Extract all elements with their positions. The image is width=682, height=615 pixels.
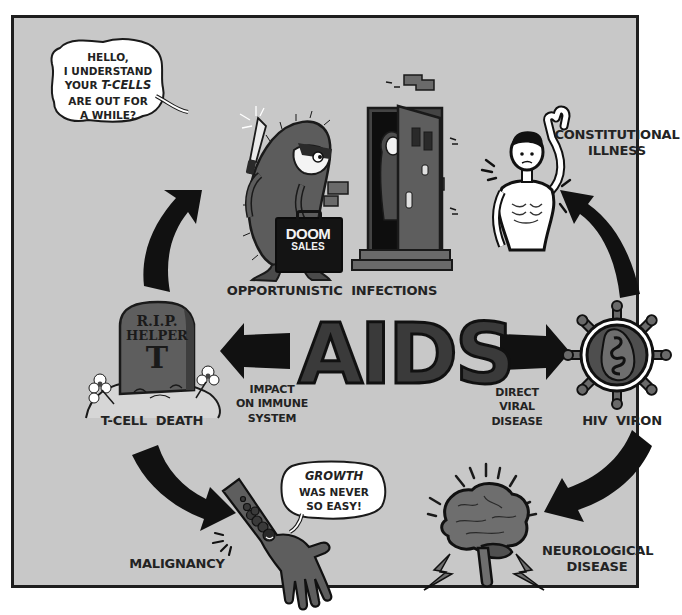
brain-icon <box>412 458 562 598</box>
speech-bubble-growth-text: GROWTH WAS NEVER SO EASY! <box>286 469 382 513</box>
label-hiv-viron: HIV VIRON <box>572 413 672 429</box>
label-opportunistic-infections: OPPORTUNISTIC INFECTIONS <box>222 283 442 299</box>
knife-icon <box>236 110 276 180</box>
tombstone-text: R.I.P. HELPER T <box>114 314 200 373</box>
straight-arrow-icon <box>220 323 292 379</box>
curved-arrow-icon <box>554 190 644 310</box>
label-impact-on-immune-system: IMPACT ON IMMUNE SYSTEM <box>232 383 312 426</box>
lightning-icon <box>514 554 544 590</box>
lightning-icon <box>424 554 452 590</box>
curved-arrow-icon <box>130 190 220 300</box>
label-direct-viral-disease: DIRECT VIRAL DISEASE <box>482 386 552 429</box>
briefcase-handle <box>296 210 322 223</box>
label-constitutional-illness: CONSTITUTIONAL ILLNESS <box>552 127 682 160</box>
label-malignancy: MALIGNANCY <box>122 556 232 572</box>
center-title-aids: AIDS <box>298 312 513 396</box>
door-icon <box>322 70 452 270</box>
label-neurological-disease: NEUROLOGICAL DISEASE <box>542 543 652 576</box>
label-t-cell-death: T-CELL DEATH <box>92 413 212 429</box>
hiv-virion-icon <box>562 300 672 410</box>
speech-bubble-hello-text: HELLO, I UNDERSTAND YOUR T-CELLS ARE OUT… <box>52 50 164 122</box>
